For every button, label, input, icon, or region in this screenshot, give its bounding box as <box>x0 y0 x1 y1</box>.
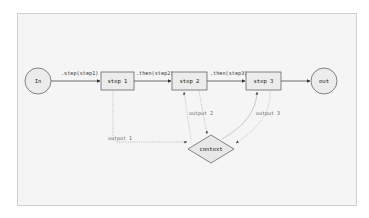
node-step1-label: step 1 <box>108 78 128 85</box>
node-step2[interactable]: step 2 <box>172 72 207 90</box>
node-context[interactable]: context <box>188 135 234 163</box>
edge-label-output-2: output 2 <box>189 110 213 117</box>
node-in[interactable]: In <box>25 68 51 94</box>
node-out-label: out <box>319 78 329 84</box>
node-context-label: context <box>199 146 222 152</box>
workflow-diagram: .step(step1) .then(step2) .then(step3) o… <box>0 0 369 218</box>
node-step3[interactable]: step 3 <box>246 72 281 90</box>
edge-step2-step3: .then(step3) <box>207 70 247 81</box>
edge-step3-context: output 3 <box>236 91 280 143</box>
node-step2-label: step 2 <box>180 78 200 85</box>
node-step3-label: step 3 <box>254 78 274 85</box>
edge-label-then-step3: .then(step3) <box>210 70 247 77</box>
edge-label-output-3: output 3 <box>256 110 280 117</box>
edge-label-step: .step(step1) <box>61 70 98 77</box>
edge-step2-context: output 2 <box>189 91 213 134</box>
edge-label-output-1: output 1 <box>108 135 132 142</box>
node-in-label: In <box>35 78 42 84</box>
edge-step1-context: output 1 <box>108 91 187 142</box>
node-step1[interactable]: step 1 <box>101 72 134 90</box>
edge-step1-step2: .then(step2) <box>134 70 173 81</box>
edge-label-then-step2: .then(step2) <box>136 70 173 77</box>
node-out[interactable]: out <box>311 68 337 94</box>
edge-in-step1: .step(step1) <box>51 70 100 81</box>
edge-context-step3 <box>222 92 257 139</box>
